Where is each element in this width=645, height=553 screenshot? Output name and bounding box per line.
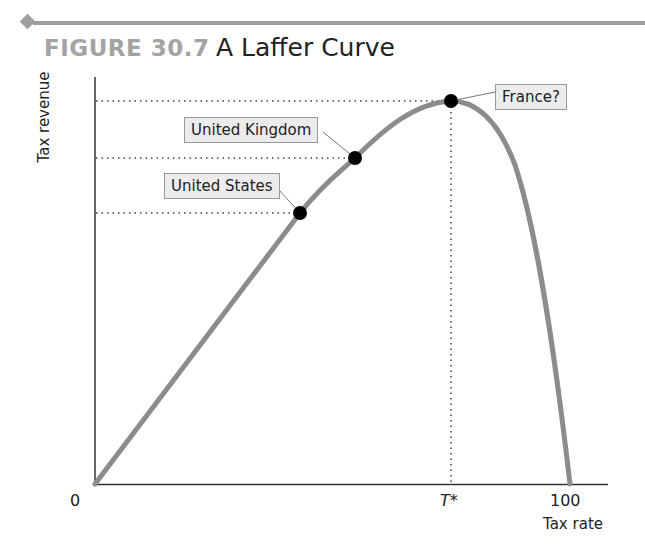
label-united-states: United States (164, 173, 280, 199)
x-tick-hundred: 100 (550, 491, 581, 510)
x-axis-label: Tax rate (543, 515, 603, 533)
point-us (293, 206, 307, 220)
point-france (444, 94, 458, 108)
y-axis-label: Tax revenue (35, 57, 53, 177)
x-tick-zero: 0 (70, 491, 80, 510)
point-uk (348, 151, 362, 165)
chart-plot (0, 0, 645, 553)
label-france: France? (495, 84, 567, 110)
label-united-kingdom: United Kingdom (184, 117, 318, 143)
x-tick-tstar: T* (440, 491, 458, 510)
